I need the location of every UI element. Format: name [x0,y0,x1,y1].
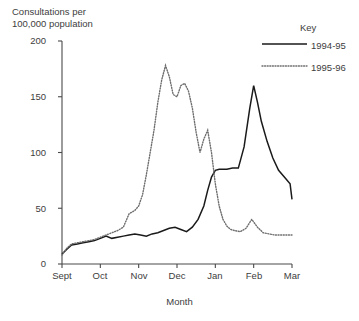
y-axis-ticks [58,41,62,264]
plot-area [0,0,359,321]
x-axis-ticks [62,264,292,268]
axes [58,41,292,268]
line-chart: Consultations per 100,000 population Mon… [0,0,359,321]
series-line-1994-95 [62,86,292,254]
series-line-1995-96 [62,66,292,256]
